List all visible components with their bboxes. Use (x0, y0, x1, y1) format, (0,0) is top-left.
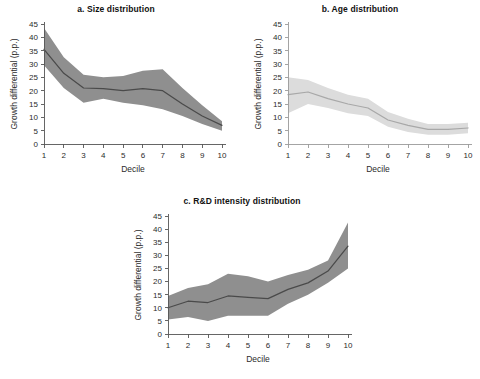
svg-text:25: 25 (153, 264, 162, 273)
panel-b-plot: 05101520253035404512345678910DecileGrowt… (240, 18, 480, 189)
svg-text:3: 3 (81, 151, 86, 160)
svg-text:3: 3 (206, 341, 211, 350)
svg-text:9: 9 (326, 341, 331, 350)
panel-size-distribution: a. Size distribution 0510152025303540451… (0, 4, 232, 189)
svg-text:8: 8 (306, 341, 311, 350)
y-axis-title: Growth differential (p.p.) (253, 38, 263, 129)
y-axis-title: Growth differential (p.p.) (9, 38, 19, 129)
svg-text:40: 40 (29, 33, 38, 42)
svg-text:30: 30 (153, 251, 162, 260)
svg-text:4: 4 (346, 151, 351, 160)
svg-text:1: 1 (286, 151, 291, 160)
svg-text:1: 1 (166, 341, 171, 350)
svg-text:7: 7 (286, 341, 291, 350)
svg-text:20: 20 (29, 87, 38, 96)
svg-text:45: 45 (273, 20, 282, 29)
svg-text:45: 45 (29, 20, 38, 29)
svg-text:3: 3 (326, 151, 331, 160)
svg-text:6: 6 (386, 151, 391, 160)
svg-text:10: 10 (273, 113, 282, 122)
svg-text:4: 4 (101, 151, 106, 160)
svg-text:15: 15 (29, 100, 38, 109)
svg-text:20: 20 (273, 87, 282, 96)
svg-text:25: 25 (273, 73, 282, 82)
svg-text:7: 7 (406, 151, 411, 160)
svg-text:20: 20 (153, 277, 162, 286)
svg-text:15: 15 (153, 291, 162, 300)
svg-text:6: 6 (266, 341, 271, 350)
panel-a-title: a. Size distribution (0, 4, 232, 14)
svg-text:15: 15 (273, 100, 282, 109)
svg-text:25: 25 (29, 73, 38, 82)
svg-text:40: 40 (153, 225, 162, 234)
svg-text:8: 8 (426, 151, 431, 160)
svg-text:40: 40 (273, 33, 282, 42)
svg-text:5: 5 (158, 317, 163, 326)
svg-text:0: 0 (158, 330, 163, 339)
svg-text:0: 0 (34, 140, 39, 149)
y-axis-title: Growth differential (p.p.) (133, 229, 143, 320)
svg-text:35: 35 (29, 47, 38, 56)
svg-text:10: 10 (29, 113, 38, 122)
svg-text:10: 10 (344, 341, 353, 350)
svg-text:10: 10 (464, 151, 473, 160)
x-axis-title: Decile (121, 164, 145, 174)
svg-text:6: 6 (141, 151, 146, 160)
svg-text:10: 10 (153, 304, 162, 313)
svg-text:35: 35 (273, 47, 282, 56)
svg-text:2: 2 (306, 151, 311, 160)
svg-text:2: 2 (186, 341, 191, 350)
svg-text:2: 2 (62, 151, 67, 160)
svg-text:5: 5 (34, 127, 39, 136)
svg-text:8: 8 (180, 151, 185, 160)
panel-a-plot: 05101520253035404512345678910DecileGrowt… (0, 18, 232, 189)
svg-text:4: 4 (226, 341, 231, 350)
svg-text:7: 7 (160, 151, 165, 160)
panel-rd-intensity-distribution: c. R&D intensity distribution 0510152025… (120, 196, 364, 379)
panel-b-title: b. Age distribution (240, 4, 480, 14)
panel-c-plot: 05101520253035404512345678910DecileGrowt… (120, 210, 364, 379)
svg-text:30: 30 (29, 60, 38, 69)
x-axis-title: Decile (366, 164, 390, 174)
svg-text:9: 9 (200, 151, 205, 160)
svg-text:5: 5 (366, 151, 371, 160)
svg-text:30: 30 (273, 60, 282, 69)
svg-text:1: 1 (42, 151, 47, 160)
svg-text:0: 0 (278, 140, 283, 149)
panel-age-distribution: b. Age distribution 05101520253035404512… (240, 4, 480, 189)
panel-c-title: c. R&D intensity distribution (120, 196, 364, 206)
svg-text:45: 45 (153, 212, 162, 221)
svg-text:10: 10 (218, 151, 227, 160)
x-axis-title: Decile (246, 354, 270, 364)
svg-text:35: 35 (153, 238, 162, 247)
svg-text:5: 5 (121, 151, 126, 160)
svg-text:5: 5 (246, 341, 251, 350)
svg-text:5: 5 (278, 127, 283, 136)
svg-text:9: 9 (446, 151, 451, 160)
